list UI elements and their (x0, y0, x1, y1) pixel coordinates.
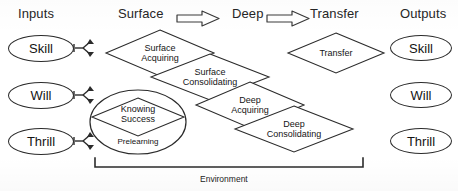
column-header-deep: Deep (232, 6, 263, 21)
input-skill-ellipse: Skill (8, 35, 74, 62)
column-header-surface: Surface (118, 6, 164, 21)
column-header-transfer: Transfer (310, 6, 359, 21)
transfer-diamond (286, 31, 386, 75)
deep-consolidating-diamond (233, 104, 355, 154)
input-will-label: Will (31, 88, 52, 103)
input-thrill-label: Thrill (27, 134, 55, 149)
input-skill-connector-icon (72, 38, 98, 62)
output-thrill-ellipse: Thrill (390, 128, 452, 154)
output-will-label: Will (411, 88, 432, 103)
arrow-deep-to-transfer-icon (266, 10, 310, 31)
column-header-outputs: Outputs (400, 6, 446, 21)
output-thrill-label: Thrill (407, 134, 435, 149)
input-thrill-ellipse: Thrill (8, 128, 74, 155)
diagram-canvas: Inputs Surface Deep Transfer Outputs Ski… (0, 0, 458, 191)
environment-bracket (93, 157, 365, 175)
environment-label: Environment (200, 174, 248, 184)
output-will-ellipse: Will (390, 82, 452, 108)
column-header-inputs: Inputs (18, 6, 54, 21)
input-will-ellipse: Will (8, 82, 74, 109)
output-skill-label: Skill (409, 41, 433, 56)
output-skill-ellipse: Skill (390, 35, 452, 61)
input-skill-label: Skill (29, 41, 53, 56)
